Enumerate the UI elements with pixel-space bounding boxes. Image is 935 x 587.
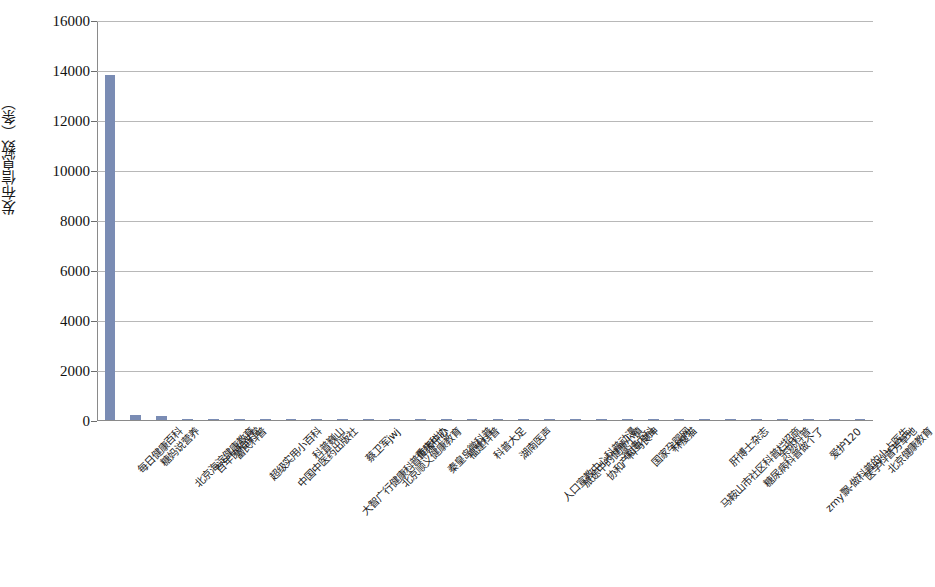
x-tick-label: 爱护120 <box>826 424 864 462</box>
y-tick-label: 14000 <box>30 63 90 80</box>
y-tick-label: 8000 <box>30 213 90 230</box>
bar-series <box>97 21 873 421</box>
y-tick-label: 0 <box>30 413 90 430</box>
x-axis-tick-labels: 每日健康百科糖妈说营养北京海淀健康教育百年协和讲堂富民科普超级实用小百科中国中医… <box>97 424 881 587</box>
y-tick-label: 4000 <box>30 313 90 330</box>
bar <box>363 419 374 420</box>
bar <box>544 419 555 420</box>
bar <box>415 419 426 420</box>
bar <box>570 419 581 420</box>
bar <box>389 419 400 420</box>
bar <box>208 419 219 420</box>
bar <box>751 419 762 420</box>
y-tick-mark <box>91 421 97 422</box>
bar <box>441 419 452 420</box>
bar <box>286 419 297 420</box>
bar <box>855 419 866 420</box>
bar <box>622 419 633 420</box>
bar <box>311 419 322 420</box>
y-tick-label: 6000 <box>30 263 90 280</box>
y-tick-label: 12000 <box>30 113 90 130</box>
plot-area <box>97 21 873 421</box>
bar <box>518 419 529 420</box>
bar <box>234 419 245 420</box>
bar <box>130 415 141 420</box>
y-axis-tick-labels: 0200040006000800010000120001400016000 <box>28 0 90 440</box>
bar <box>829 419 840 420</box>
x-tick-label: 蔡卫军jwj <box>361 424 402 465</box>
bar <box>648 419 659 420</box>
bar <box>699 419 710 420</box>
bar <box>467 419 478 420</box>
bar <box>260 419 271 420</box>
y-tick-label: 16000 <box>30 13 90 30</box>
y-tick-label: 2000 <box>30 363 90 380</box>
bar <box>105 75 116 420</box>
y-axis-title: 发布信息数（条） <box>2 95 28 215</box>
bar <box>156 416 167 420</box>
bar <box>674 419 685 420</box>
bar <box>803 419 814 420</box>
y-tick-label: 10000 <box>30 163 90 180</box>
bar <box>182 419 193 420</box>
bar <box>337 419 348 420</box>
bar <box>493 419 504 420</box>
bar <box>596 419 607 420</box>
bar <box>777 419 788 420</box>
bar <box>725 419 736 420</box>
